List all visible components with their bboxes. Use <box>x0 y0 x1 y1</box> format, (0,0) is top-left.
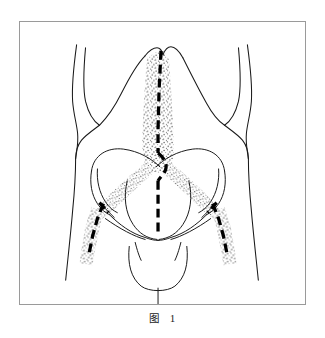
figure-caption-label: 图 <box>149 312 160 324</box>
figure-root: 图1 <box>0 0 325 338</box>
figure-caption: 图1 <box>0 311 325 325</box>
figure-frame <box>19 21 306 305</box>
figure-caption-number: 1 <box>170 312 176 324</box>
anatomy-illustration <box>20 22 305 304</box>
